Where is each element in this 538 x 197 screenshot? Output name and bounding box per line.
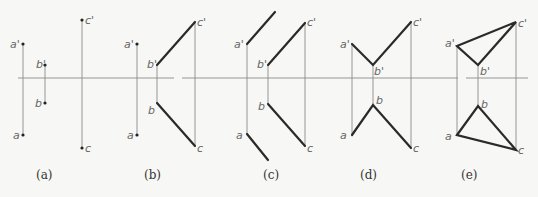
label-c: c <box>85 142 91 155</box>
label-a-prime: a' <box>10 38 20 51</box>
label-c-prime: c' <box>197 16 206 29</box>
label-c-prime: c' <box>518 17 527 30</box>
panel-d: a' a b' b c' c (d) <box>340 16 422 182</box>
label-a: a <box>13 129 20 142</box>
label-b-prime: b' <box>36 58 46 71</box>
label-c-prime: c' <box>85 14 94 27</box>
label-a-prime: a' <box>234 38 244 51</box>
panel-b: a' a b' b c' c (b) <box>124 16 206 182</box>
label-c: c <box>197 142 203 155</box>
line-a-prime-extension <box>247 12 275 44</box>
projection-diagram: a' a b' b c' c (a) a' a b' b c' c (b) a'… <box>0 0 538 197</box>
line-b-c <box>157 103 195 146</box>
label-b: b <box>258 100 265 113</box>
label-b-prime: b' <box>374 65 384 78</box>
triangle-top-view <box>457 106 516 150</box>
label-b: b <box>35 97 42 110</box>
label-a-prime: a' <box>124 38 134 51</box>
panel-c: a' a b' b c' c (c) <box>234 12 316 182</box>
caption-d: (d) <box>360 168 377 182</box>
diagram-svg: a' a b' b c' c (a) a' a b' b c' c (b) a'… <box>0 0 538 197</box>
label-a: a <box>340 129 347 142</box>
label-a: a <box>236 129 243 142</box>
line-b-prime-c-prime <box>268 23 305 65</box>
label-c-prime: c' <box>413 16 422 29</box>
panel-e: a' a b' b c' c (e) <box>445 17 527 182</box>
label-b: b <box>481 98 488 111</box>
label-a-prime: a' <box>445 37 455 50</box>
label-a: a <box>445 130 452 143</box>
label-b-prime: b' <box>147 58 157 71</box>
label-b: b <box>376 94 383 107</box>
caption-a: (a) <box>36 168 53 182</box>
line-a-extension <box>247 134 268 160</box>
line-a-prime-b-prime-c-prime <box>352 22 411 65</box>
label-c: c <box>307 142 313 155</box>
triangle-front-view <box>457 22 516 65</box>
caption-e: (e) <box>461 168 477 182</box>
label-b-prime: b' <box>257 58 267 71</box>
label-b-prime: b' <box>480 65 490 78</box>
line-b-c <box>268 104 305 146</box>
label-c-prime: c' <box>307 16 316 29</box>
label-a: a <box>127 129 134 142</box>
label-c: c <box>413 142 419 155</box>
caption-c: (c) <box>263 168 279 182</box>
caption-b: (b) <box>144 168 161 182</box>
line-b-prime-c-prime <box>157 22 195 65</box>
label-c: c <box>518 144 524 157</box>
label-a-prime: a' <box>340 38 350 51</box>
panel-a: a' a b' b c' c (a) <box>10 14 94 182</box>
line-a-b-c <box>352 105 411 148</box>
label-b: b <box>148 104 155 117</box>
